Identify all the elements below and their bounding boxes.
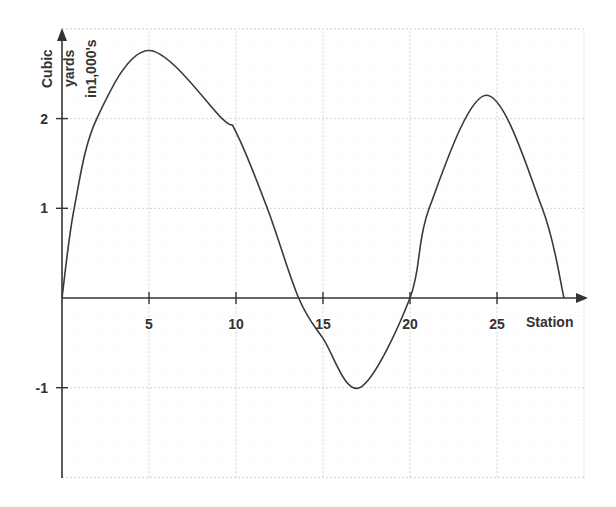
major-grid	[62, 29, 584, 478]
axes	[57, 28, 588, 478]
x-tick-label: 5	[145, 316, 153, 332]
y-tick-label: 1	[40, 200, 48, 216]
x-tick-label: 10	[228, 316, 244, 332]
x-tick-label: 25	[489, 316, 505, 332]
y-axis-title-line-1: Cubic	[39, 49, 55, 88]
y-axis-title: Cubic yards in1,000's	[39, 39, 99, 98]
ticks	[56, 119, 497, 388]
data-curve	[62, 50, 564, 388]
x-axis-arrow-icon	[576, 293, 588, 303]
x-tick-label: 20	[402, 316, 418, 332]
chart-canvas: 51015202521-1 Station Cubic yards in1,00…	[0, 0, 616, 507]
y-axis-title-line-3: in1,000's	[83, 39, 99, 98]
y-tick-label: -1	[36, 380, 49, 396]
tick-labels: 51015202521-1	[36, 111, 505, 396]
y-axis-title-line-2: yards	[61, 49, 77, 87]
y-tick-label: 2	[40, 111, 48, 127]
x-axis-title: Station	[526, 314, 573, 330]
y-axis-arrow-icon	[57, 28, 67, 41]
